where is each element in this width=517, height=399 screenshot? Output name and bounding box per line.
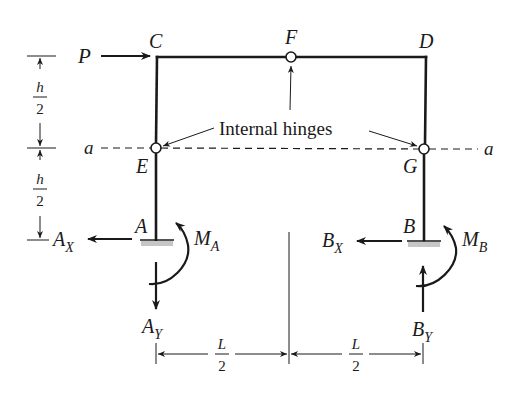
svg-text:L: L [217,336,226,352]
dim-l-half-right: L 2 [349,336,363,374]
internal-hinges-label: Internal hinges [219,118,332,139]
reaction-bx-label: BX [322,229,343,256]
point-label-f: F [284,26,298,48]
point-label-d: D [418,30,434,52]
reaction-ax-label: AX [51,228,74,255]
svg-text:2: 2 [352,358,360,374]
point-label-c: C [149,30,163,52]
reaction-ay-label: AY [140,315,164,342]
svg-text:L: L [351,336,360,352]
portal-frame-diagram: a a Internal hinges C F D E G A B P AX A… [0,0,517,399]
section-label-left: a [84,137,94,158]
moment-ma-label: MA [193,227,220,254]
column-left-upper [156,57,157,144]
hinge-e-icon [151,143,161,153]
svg-text:2: 2 [218,358,226,374]
point-label-a: A [133,215,148,237]
point-label-e: E [135,155,148,177]
svg-text:2: 2 [36,193,44,209]
horizontal-dimension [156,232,423,364]
hinge-f-icon [286,52,296,62]
point-label-b: B [403,215,415,237]
dim-h-half-lower: h 2 [33,171,47,209]
moment-mb-label: MB [461,228,488,255]
hinge-g-icon [419,144,429,154]
column-right-upper [425,57,426,144]
point-label-g: G [403,155,418,177]
load-p-label: P [77,44,91,68]
dim-l-half-left: L 2 [215,336,229,374]
dim-h-half-upper: h 2 [33,79,47,117]
svg-text:h: h [36,171,44,187]
svg-text:2: 2 [36,101,44,117]
reaction-by-label: BY [412,318,434,345]
section-label-right: a [484,138,494,159]
svg-text:h: h [36,79,44,95]
support-b-icon [407,241,441,247]
